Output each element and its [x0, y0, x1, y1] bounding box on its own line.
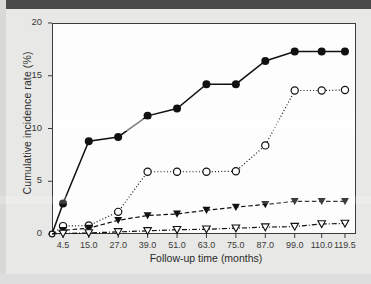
y-tick-label: 15	[18, 69, 42, 80]
series-line	[52, 51, 345, 234]
series-open-circle-dotted	[49, 86, 348, 236]
series-open-triangle-dashdot	[52, 220, 349, 237]
data-point-marker	[173, 104, 181, 112]
data-point-marker	[144, 168, 151, 175]
data-point-marker	[318, 198, 326, 205]
x-axis-title: Follow-up time (months)	[46, 252, 366, 264]
data-point-marker	[232, 168, 239, 175]
data-point-marker	[291, 47, 299, 55]
image-top-band	[0, 0, 371, 9]
data-point-marker	[341, 86, 348, 93]
data-point-marker	[59, 199, 67, 207]
x-tick-label: 119.5	[328, 240, 362, 250]
data-point-marker	[85, 137, 93, 145]
chart-figure: Cumulative incidence rate (%) Follow-up …	[0, 9, 371, 274]
data-point-marker	[318, 87, 325, 94]
data-point-marker	[261, 57, 269, 65]
series-filled-circle-solid	[49, 47, 349, 236]
data-point-marker	[114, 133, 122, 141]
image-bottom-band	[0, 274, 371, 284]
y-tick-label: 10	[18, 122, 42, 133]
series-line	[52, 223, 345, 234]
data-point-marker	[291, 87, 298, 94]
series-line	[52, 201, 345, 234]
series-line	[52, 90, 345, 234]
data-point-marker	[232, 80, 240, 88]
data-point-marker	[173, 168, 180, 175]
y-tick-label: 20	[18, 16, 42, 27]
data-point-marker	[202, 80, 210, 88]
data-point-marker	[203, 168, 210, 175]
data-point-marker	[232, 204, 240, 211]
y-tick-label: 5	[18, 174, 42, 185]
data-point-marker	[144, 112, 152, 120]
data-point-marker	[262, 142, 269, 149]
data-point-marker	[115, 208, 122, 215]
y-tick-label: 0	[18, 227, 42, 238]
chart-svg	[0, 9, 371, 274]
data-point-marker	[318, 47, 326, 55]
series-filled-triangle-dashed	[52, 198, 349, 234]
data-point-marker	[341, 47, 349, 55]
